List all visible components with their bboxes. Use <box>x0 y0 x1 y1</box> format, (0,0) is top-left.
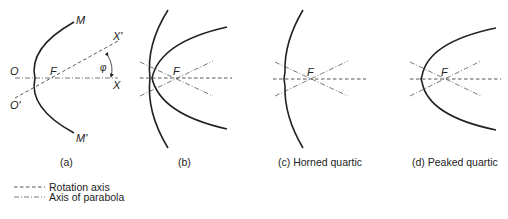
label-O: O <box>10 65 19 77</box>
panel-c: F (c) Horned quartic <box>273 10 366 168</box>
label-F: F <box>50 65 58 77</box>
panel-d: F (d) Peaked quartic <box>410 28 501 168</box>
caption-c: (c) Horned quartic <box>278 156 362 168</box>
caption-d: (d) Peaked quartic <box>412 156 498 168</box>
caption-a: (a) <box>60 156 73 168</box>
panel-a: M M' O O' F X X' φ (a) <box>10 14 123 168</box>
label-F: F <box>441 66 449 78</box>
legend: Rotation axis Axis of parabola <box>14 181 124 203</box>
label-phi: φ <box>100 62 107 73</box>
label-M-prime: M' <box>76 132 88 144</box>
phi-angle-arc <box>108 56 112 77</box>
label-X: X <box>112 79 121 91</box>
panel-b: F (b) <box>140 10 232 168</box>
parabola-curve <box>34 22 74 133</box>
label-M: M <box>76 14 86 26</box>
caption-b: (b) <box>178 156 191 168</box>
legend-parabola-axis-label: Axis of parabola <box>49 191 124 203</box>
label-O-prime: O' <box>10 99 22 111</box>
diagram-canvas: M M' O O' F X X' φ (a) F (b) F (c) Horne… <box>0 0 508 219</box>
label-F: F <box>173 65 181 77</box>
label-F: F <box>307 66 315 78</box>
label-X-prime: X' <box>112 30 123 42</box>
